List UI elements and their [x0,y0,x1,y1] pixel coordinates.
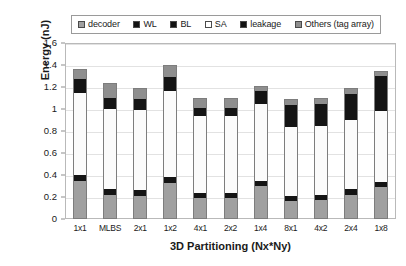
x-axis-tick-label: 1x4 [246,220,276,236]
bar-segment-others-tag-array [224,98,238,108]
bar-segment-sa [193,116,207,193]
legend-swatch-wl [133,21,140,28]
bar-segment-decoder [284,201,298,219]
bar-segment-sa [284,127,298,196]
y-axis: 00.20.40.60.811.21.41.6 [0,43,65,219]
stacked-bar[interactable] [193,98,207,219]
bar-segment-sa [73,93,87,176]
legend-item-sa: SA [205,20,227,29]
bar-segment-decoder [73,181,87,220]
x-axis-tick-label: 1x1 [65,220,95,236]
legend-label-others: Others (tag array) [305,20,374,29]
bar-series-container [65,43,396,219]
legend-swatch-others [295,21,302,28]
x-axis-tick-label: 4x2 [306,220,336,236]
bar-segment-decoder [133,196,147,219]
bar-segment-wl [73,79,87,92]
legend-item-wl: WL [133,20,156,29]
x-axis-tick-label: 1x8 [366,220,396,236]
chart-legend: decoder WL BL SA leakage Others (tag arr… [71,15,381,34]
x-axis-tick-label: 8x1 [276,220,306,236]
bar-segment-decoder [103,195,117,219]
y-axis-title: Energy (nJ) [38,0,52,138]
bar-segment-wl [344,94,358,120]
x-axis-tick-label: 4x1 [185,220,215,236]
bar-segment-sa [314,126,328,195]
legend-swatch-bl [170,21,177,28]
bar-segment-wl [103,98,117,109]
bar-segment-others-tag-array [133,88,147,99]
stacked-bar[interactable] [224,98,238,219]
legend-label-sa: SA [215,20,227,29]
bar-segment-sa [163,91,177,177]
y-axis-tick-label: 1 [52,104,57,114]
bar-segment-decoder [344,195,358,219]
x-axis: 1x1MLBS2x11x24x12x21x48x14x22x41x8 [65,220,396,236]
stacked-bar[interactable] [133,88,147,219]
bar-segment-wl [163,77,177,91]
legend-item-others: Others (tag array) [295,20,374,29]
bar-segment-decoder [314,200,328,219]
bar-segment-wl [193,108,207,116]
legend-label-leakage: leakage [250,20,281,29]
bar-segment-wl [374,76,388,111]
legend-item-decoder: decoder [78,20,120,29]
bar-slot [306,43,336,219]
bar-segment-sa [254,104,268,181]
bar-segment-others-tag-array [73,69,87,79]
legend-swatch-sa [205,21,212,28]
bar-slot [336,43,366,219]
x-axis-title: 3D Partitioning (Nx*Ny) [65,240,396,252]
stacked-bar[interactable] [344,88,358,219]
legend-swatch-leakage [240,21,247,28]
x-axis-tick-label: 2x4 [336,220,366,236]
x-axis-tick-label: 2x2 [215,220,245,236]
bar-segment-others-tag-array [193,98,207,108]
bar-segment-sa [224,116,238,193]
bar-segment-decoder [163,183,177,219]
y-axis-tick-label: 0.4 [44,170,57,180]
x-axis-tick-label: 1x2 [155,220,185,236]
stacked-bar[interactable] [163,65,177,219]
x-axis-tick-label: MLBS [95,220,125,236]
stacked-bar[interactable] [254,86,268,219]
stacked-bar[interactable] [284,99,298,219]
x-axis-tick-label: 2x1 [125,220,155,236]
legend-swatch-decoder [78,21,85,28]
legend-label-bl: BL [180,20,191,29]
bar-segment-wl [314,104,328,126]
bar-slot [95,43,125,219]
bar-segment-sa [103,109,117,189]
bar-segment-decoder [374,187,388,219]
bar-slot [155,43,185,219]
bar-slot [185,43,215,219]
bar-segment-wl [133,99,147,110]
bar-segment-sa [344,120,358,189]
bar-segment-decoder [224,198,238,219]
bar-segment-decoder [254,186,268,219]
bar-slot [366,43,396,219]
stacked-bar[interactable] [73,69,87,219]
bar-segment-wl [284,105,298,127]
y-axis-tick-label: 0.2 [44,192,57,202]
bar-slot [65,43,95,219]
stacked-bar[interactable] [314,98,328,219]
stacked-bar[interactable] [103,83,117,219]
bar-slot [246,43,276,219]
legend-label-decoder: decoder [88,20,120,29]
bar-segment-decoder [193,198,207,219]
legend-label-wl: WL [143,20,156,29]
bar-segment-wl [254,91,268,103]
bar-segment-others-tag-array [163,65,177,77]
y-axis-tick-label: 0 [52,214,57,224]
bar-segment-sa [374,111,388,181]
bar-segment-wl [224,108,238,116]
bar-slot [215,43,245,219]
y-axis-tick-label: 0.6 [44,148,57,158]
bar-slot [276,43,306,219]
bar-slot [125,43,155,219]
stacked-bar[interactable] [374,71,388,219]
legend-item-bl: BL [170,20,191,29]
bar-segment-sa [133,110,147,190]
bar-segment-others-tag-array [103,83,117,98]
